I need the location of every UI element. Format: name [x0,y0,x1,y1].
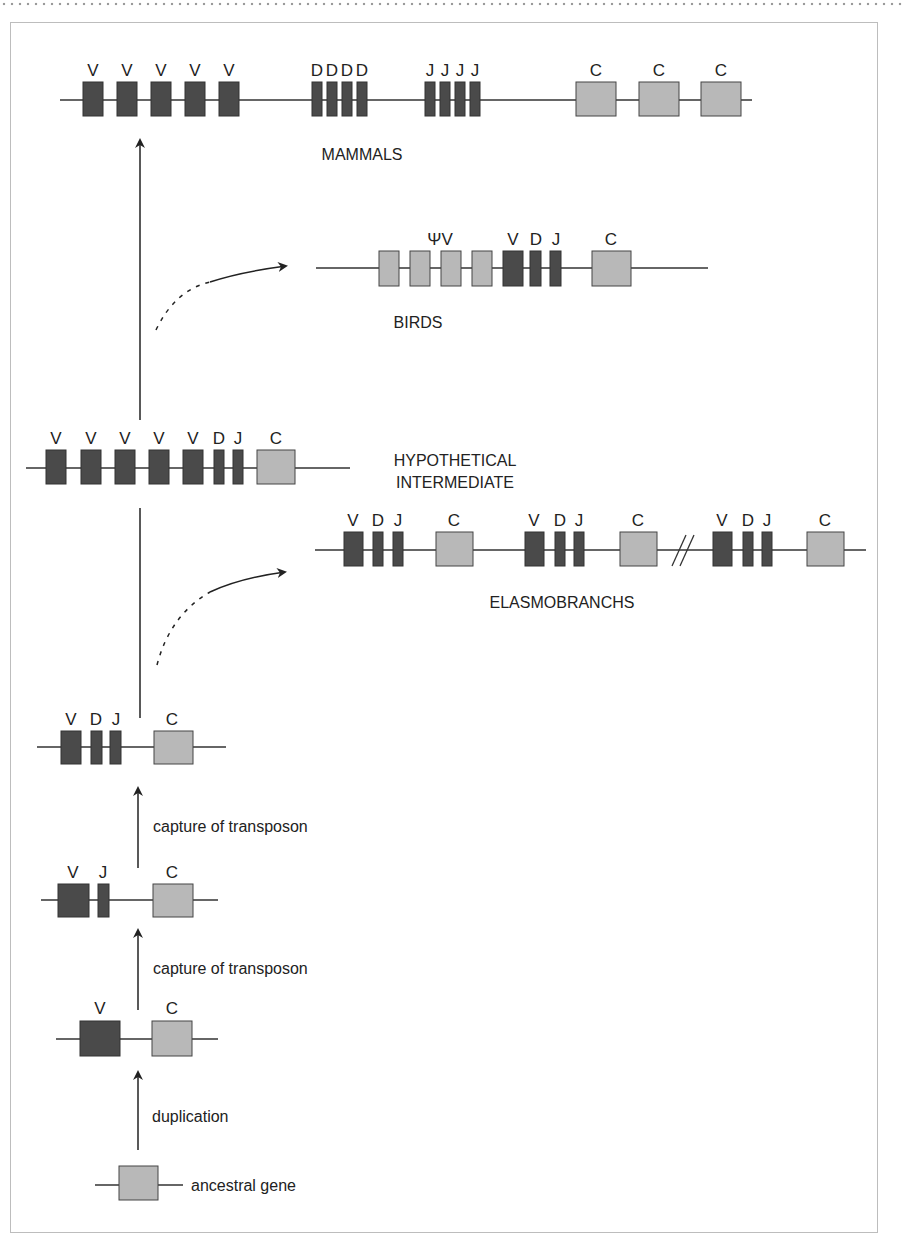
label-c: C [605,230,617,249]
hypothetical-title-line2: INTERMEDIATE [396,474,514,491]
evolution-diagram: V V V V V D D D D J J J J C C C MAMMALS … [0,0,906,1249]
label-j: J [552,230,561,249]
birds-title: BIRDS [394,314,443,331]
label-v: V [223,61,235,80]
label-c: C [166,863,178,882]
label-d: D [90,710,102,729]
label-j: J [471,61,480,80]
ancestral-gene-locus: ancestral gene [95,1166,296,1200]
label-d: D [742,511,754,530]
label-j: J [394,511,403,530]
capture-transposon-label-1: capture of transposon [153,960,308,977]
arrow-to-elasmobranchs [210,572,285,592]
label-d: D [530,230,542,249]
label-j: J [99,863,108,882]
label-c: C [653,61,665,80]
label-v: V [187,429,199,448]
duplication-label: duplication [152,1108,229,1125]
label-c: C [590,61,602,80]
label-v: V [87,61,99,80]
label-c: C [166,710,178,729]
birds-locus: ΨV V D J C BIRDS [316,230,708,331]
label-c: C [166,999,178,1018]
label-c: C [270,429,282,448]
label-v: V [347,511,359,530]
label-d: D [554,511,566,530]
label-d: D [213,429,225,448]
label-v: V [50,429,62,448]
elasmobranchs-title: ELASMOBRANCHS [490,594,635,611]
label-d: D [372,511,384,530]
label-d: D [356,61,368,80]
ancestral-gene-label: ancestral gene [191,1177,296,1194]
label-c: C [715,61,727,80]
vjc-locus: V J C [41,863,218,917]
label-j: J [234,429,243,448]
dashed-branch-birds [156,282,210,330]
label-j: J [112,710,121,729]
label-v: V [716,511,728,530]
label-v: V [507,230,519,249]
label-v: V [121,61,133,80]
hypothetical-intermediate-locus: V V V V V D J C HYPOTHETICAL INTERMEDIAT… [26,429,516,491]
arrow-to-birds [210,266,286,282]
vdjc-locus: V D J C [37,710,226,764]
vc-locus: V C [56,999,218,1056]
label-v: V [94,999,106,1018]
label-psi-v: ΨV [427,230,453,249]
dashed-branch-elasmobranchs [157,592,210,665]
mammals-title: MAMMALS [322,146,403,163]
capture-transposon-label-2: capture of transposon [153,818,308,835]
label-d: D [341,61,353,80]
label-v: V [67,863,79,882]
label-d: D [311,61,323,80]
label-v: V [189,61,201,80]
label-d: D [326,61,338,80]
elasmobranchs-locus: V D J C V D J C V D J C ELASMOBRANCHS [315,511,866,611]
label-j: J [575,511,584,530]
label-c: C [819,511,831,530]
label-c: C [632,511,644,530]
label-v: V [155,61,167,80]
label-v: V [85,429,97,448]
label-v: V [528,511,540,530]
label-j: J [763,511,772,530]
label-v: V [65,710,77,729]
label-j: J [441,61,450,80]
label-v: V [153,429,165,448]
hypothetical-title-line1: HYPOTHETICAL [394,452,517,469]
mammals-locus: V V V V V D D D D J J J J C C C MAMMALS [60,61,752,163]
label-j: J [456,61,465,80]
label-v: V [119,429,131,448]
label-c: C [448,511,460,530]
label-j: J [426,61,435,80]
